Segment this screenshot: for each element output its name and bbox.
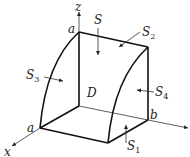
z-axis-label: z — [74, 0, 82, 14]
y-axis — [79, 106, 188, 128]
svg-text:S1: S1 — [127, 139, 140, 155]
x-axis-label: x — [4, 145, 11, 157]
svg-text:S3: S3 — [26, 68, 39, 84]
surface-s4-label: S4 — [137, 85, 168, 101]
x-axis — [12, 128, 40, 146]
svg-text:S2: S2 — [142, 25, 155, 41]
diagram-canvas: z x a a b D S S2 S3 S4 S1 — [0, 0, 190, 157]
point-a-left-label: a — [27, 121, 34, 135]
svg-text:S: S — [94, 13, 102, 27]
surface-s-label: S — [94, 13, 102, 55]
surface-s1-label: S1 — [126, 125, 140, 155]
surface-s2-label: S2 — [119, 25, 155, 47]
svg-text:S4: S4 — [155, 85, 168, 101]
surface-s3-label: S3 — [26, 68, 63, 84]
region-d-label: D — [86, 86, 97, 100]
point-a-top-label: a — [68, 22, 75, 36]
point-b-label: b — [150, 108, 158, 122]
